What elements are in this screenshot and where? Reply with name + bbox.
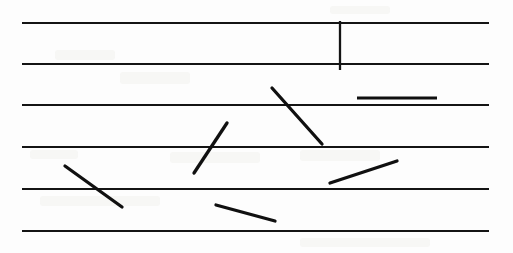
smudge-top-right: [330, 6, 390, 14]
smudge-center-low: [170, 152, 260, 163]
smudge-bottom-band: [40, 196, 160, 206]
smudge-right-low: [300, 150, 380, 161]
smudge-upper-mid: [120, 72, 190, 84]
scan-figure: [0, 0, 513, 253]
smudge-upper-left: [55, 50, 115, 60]
smudge-left-low: [30, 150, 78, 159]
smudge-bottom-right: [300, 238, 430, 247]
scanned-page-canvas: [0, 0, 513, 253]
